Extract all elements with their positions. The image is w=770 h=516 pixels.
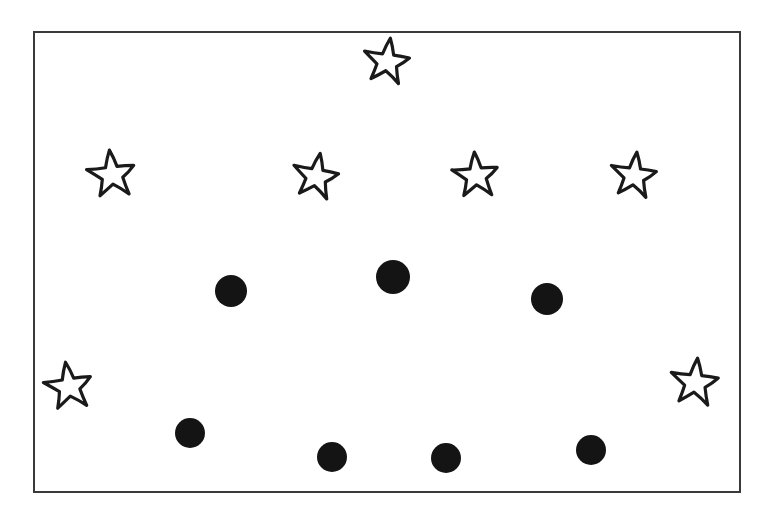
- circles-group: middle-row left circlemiddle-row center …: [175, 260, 606, 473]
- star-shape-5: upper-right star: [611, 152, 656, 197]
- star-shape-7: lower-right star: [671, 358, 718, 405]
- circle-shape-3: middle-row right circle: [531, 283, 563, 315]
- stars-group: top-center starupper-left starupper-cent…: [43, 38, 718, 408]
- star-shape-1: top-center star: [365, 38, 410, 83]
- circle-shape-5: bottom-row second circle: [317, 442, 347, 472]
- star-shape-6: lower-left star: [43, 362, 90, 408]
- star-shape-3: upper-center-left star: [294, 153, 339, 199]
- circle-shape-4: bottom-row first circle: [175, 418, 205, 448]
- circle-shape-7: bottom-row fourth circle: [576, 435, 606, 465]
- circle-shape-2: middle-row center circle: [376, 260, 410, 294]
- star-shape-2: upper-left star: [87, 150, 134, 196]
- star-shape-4: upper-center-right star: [452, 152, 497, 195]
- circle-shape-6: bottom-row third circle: [431, 443, 461, 473]
- shape-canvas: top-center starupper-left starupper-cent…: [0, 0, 770, 516]
- circle-shape-1: middle-row left circle: [215, 275, 247, 307]
- figure-root: top-center starupper-left starupper-cent…: [0, 0, 770, 516]
